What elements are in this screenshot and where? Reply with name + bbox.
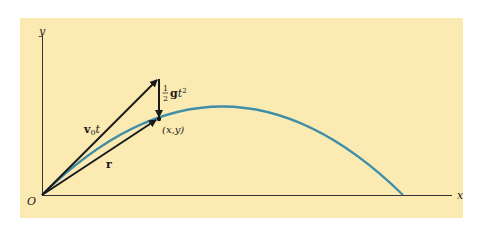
- v0t-label-t: t: [96, 123, 101, 136]
- x-axis-label: x: [457, 189, 464, 202]
- gravity-frac-num: 1: [163, 84, 168, 93]
- projectile-diagram: y x O v0t r 1 2 gt2 (x,y): [0, 0, 486, 231]
- gravity-frac-den: 2: [163, 94, 168, 103]
- gravity-label-exp: 2: [182, 87, 186, 95]
- r-label: r: [106, 158, 112, 171]
- origin-label: O: [27, 195, 36, 208]
- position-point: [157, 117, 161, 121]
- point-label: (x,y): [162, 124, 184, 135]
- y-axis-label: y: [38, 25, 46, 38]
